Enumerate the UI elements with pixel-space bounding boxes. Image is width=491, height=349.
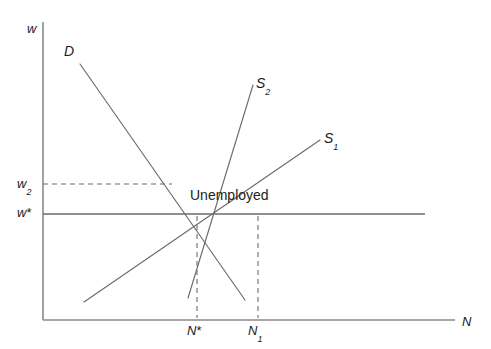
labour-market-diagram: w N D S2 S1 w2 w* N* N1 Unemployed — [0, 0, 491, 349]
wage-two-label: w2 — [17, 177, 31, 194]
supply-curve-1-label-sub: 1 — [333, 142, 338, 152]
demand-curve-label: D — [64, 44, 74, 58]
n-one-label-base: N — [248, 323, 257, 338]
wage-star-label: w* — [17, 206, 31, 219]
supply-curve-1-label-base: S — [324, 130, 333, 146]
supply-curve-1 — [84, 140, 320, 302]
supply-curve-2-label: S2 — [256, 76, 270, 94]
n-star-label-star: * — [196, 323, 201, 338]
supply-curve-2-label-base: S — [256, 75, 265, 91]
supply-curve-1-label: S1 — [324, 131, 338, 149]
unemployed-annotation: Unemployed — [190, 188, 269, 202]
wage-star-label-star: * — [26, 205, 31, 220]
n-star-label-base: N — [187, 323, 196, 338]
x-axis-label: N — [462, 315, 471, 328]
wage-two-label-sub: 2 — [26, 187, 31, 197]
n-one-label-sub: 1 — [257, 334, 262, 344]
supply-curve-2-label-sub: 2 — [265, 87, 270, 97]
wage-star-label-base: w — [17, 205, 26, 220]
demand-curve — [80, 64, 245, 300]
y-axis-label: w — [27, 22, 36, 35]
n-one-label: N1 — [248, 324, 262, 341]
n-star-label: N* — [187, 324, 201, 337]
wage-two-label-base: w — [17, 176, 26, 191]
